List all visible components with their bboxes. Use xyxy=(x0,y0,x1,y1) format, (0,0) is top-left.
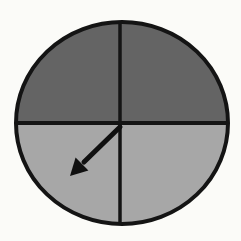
spinner-figure xyxy=(0,0,241,241)
spinner-canvas xyxy=(0,0,241,241)
